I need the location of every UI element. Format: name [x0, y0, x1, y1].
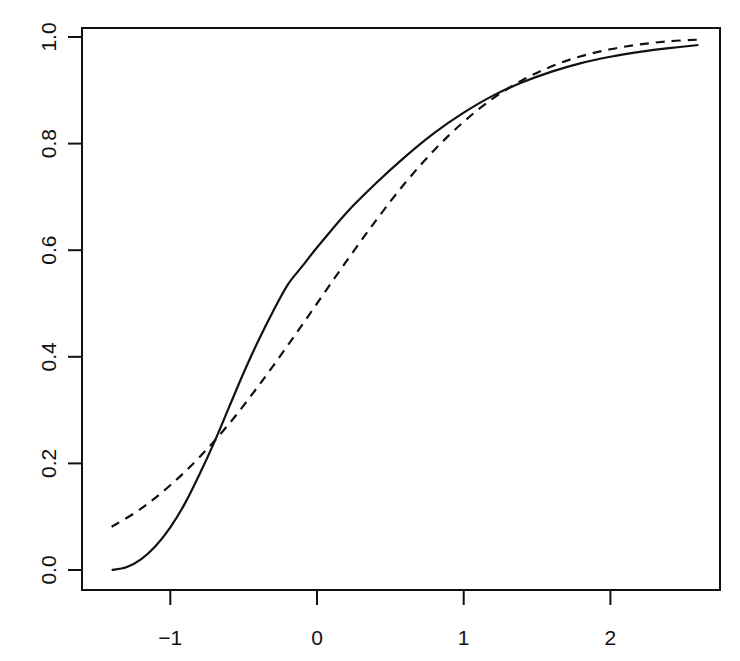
y-tick-label: 0.6: [37, 236, 60, 265]
x-tick-label: 0: [311, 626, 323, 649]
y-tick-label: 0.4: [37, 342, 60, 372]
cdf-comparison-chart: 0.00.20.40.60.81.0 −1012: [0, 0, 740, 661]
x-tick-label: 1: [458, 626, 470, 649]
series-dashed-line: [112, 40, 699, 527]
x-axis: −1012: [158, 590, 616, 649]
y-tick-label: 0.8: [37, 129, 60, 158]
x-tick-label: −1: [158, 626, 182, 649]
x-tick-label: 2: [605, 626, 617, 649]
y-tick-label: 0.0: [37, 555, 60, 584]
plot-frame: [82, 28, 720, 590]
series-solid-line: [112, 45, 699, 570]
y-tick-label: 0.2: [37, 449, 60, 478]
y-axis: 0.00.20.40.60.81.0: [37, 22, 82, 584]
y-tick-label: 1.0: [37, 22, 60, 51]
series-layer: [112, 40, 699, 570]
